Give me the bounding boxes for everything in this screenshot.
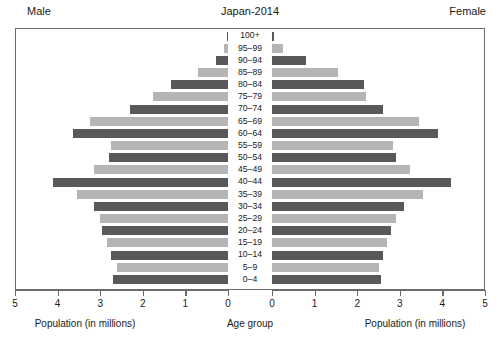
axis-tick [143, 290, 144, 296]
table-row [15, 153, 228, 162]
axis-tick [357, 290, 358, 296]
male-bar-35-39 [77, 190, 228, 199]
age-group-label-55-59: 55–59 [228, 141, 272, 150]
age-group-label-50-54: 50–54 [228, 153, 272, 162]
table-row [15, 190, 228, 199]
table-row [272, 190, 485, 199]
male-bar-45-49 [94, 165, 228, 174]
left-axis-title: Population (in millions) [35, 318, 136, 329]
female-bar-30-34 [272, 202, 404, 211]
table-row [272, 251, 485, 260]
right-tick-label-3: 3 [397, 298, 403, 309]
age-group-label-60-64: 60–64 [228, 129, 272, 138]
table-row [15, 92, 228, 101]
table-row [15, 251, 228, 260]
table-row [15, 105, 228, 114]
population-pyramid-chart: Male Japan-2014 Female 100+95–9990–9485–… [0, 0, 500, 342]
female-side-label: Female [449, 5, 486, 17]
male-bar-90-94 [216, 56, 228, 65]
male-bar-30-34 [94, 202, 228, 211]
table-row [272, 214, 485, 223]
age-group-label-25-29: 25–29 [228, 214, 272, 223]
age-group-labels: 100+95–9990–9485–8980–8475–7970–7465–696… [228, 28, 272, 290]
table-row [272, 44, 485, 53]
table-row [272, 141, 485, 150]
female-bar-100+ [272, 32, 274, 41]
table-row [272, 226, 485, 235]
age-group-label-100+: 100+ [228, 31, 272, 40]
axis-tick [315, 290, 316, 296]
table-row [15, 56, 228, 65]
axis-tick [58, 290, 59, 296]
age-group-label-90-94: 90–94 [228, 56, 272, 65]
table-row [15, 68, 228, 77]
age-group-label-0-4: 0–4 [228, 275, 272, 284]
female-bar-0-4 [272, 275, 381, 284]
table-row [15, 32, 228, 41]
female-bar-95-99 [272, 44, 283, 53]
table-row [15, 165, 228, 174]
axis-tick [442, 290, 443, 296]
female-bar-40-44 [272, 178, 451, 187]
male-bar-55-59 [111, 141, 228, 150]
age-group-label-5-9: 5–9 [228, 263, 272, 272]
age-group-label-85-89: 85–89 [228, 68, 272, 77]
table-row [272, 165, 485, 174]
male-bar-80-84 [171, 80, 229, 89]
table-row [15, 263, 228, 272]
age-group-label-15-19: 15–19 [228, 238, 272, 247]
axis-tick [228, 290, 229, 296]
female-bar-65-69 [272, 117, 419, 126]
left-axis-line [15, 290, 229, 291]
right-tick-label-0: 0 [269, 298, 275, 309]
male-bar-25-29 [100, 214, 228, 223]
axis-tick [400, 290, 401, 296]
female-bar-60-64 [272, 129, 438, 138]
right-axis-line [272, 290, 486, 291]
age-group-label-30-34: 30–34 [228, 202, 272, 211]
age-group-label-75-79: 75–79 [228, 92, 272, 101]
left-tick-label-1: 1 [183, 298, 189, 309]
table-row [15, 129, 228, 138]
table-row [272, 105, 485, 114]
age-group-label-70-74: 70–74 [228, 104, 272, 113]
table-row [272, 80, 485, 89]
right-tick-label-4: 4 [440, 298, 446, 309]
age-group-label-80-84: 80–84 [228, 80, 272, 89]
male-bar-20-24 [102, 226, 228, 235]
table-row [272, 202, 485, 211]
female-bar-10-14 [272, 251, 383, 260]
table-row [272, 92, 485, 101]
table-row [15, 238, 228, 247]
male-bar-60-64 [73, 129, 228, 138]
age-group-label-10-14: 10–14 [228, 250, 272, 259]
age-group-label-20-24: 20–24 [228, 226, 272, 235]
right-tick-label-5: 5 [482, 298, 488, 309]
male-bar-40-44 [53, 178, 228, 187]
table-row [272, 263, 485, 272]
female-bar-15-19 [272, 238, 387, 247]
table-row [272, 238, 485, 247]
axis-tick [185, 290, 186, 296]
female-bar-80-84 [272, 80, 364, 89]
axis-tick [485, 290, 486, 296]
male-bar-50-54 [109, 153, 228, 162]
female-bars-panel [272, 28, 485, 290]
table-row [15, 275, 228, 284]
male-bar-75-79 [153, 92, 228, 101]
female-bar-90-94 [272, 56, 306, 65]
table-row [15, 80, 228, 89]
left-tick-label-4: 4 [55, 298, 61, 309]
chart-title: Japan-2014 [0, 5, 500, 17]
table-row [272, 68, 485, 77]
table-row [272, 153, 485, 162]
age-group-label-95-99: 95–99 [228, 44, 272, 53]
female-bar-70-74 [272, 105, 383, 114]
male-bar-5-9 [117, 263, 228, 272]
male-bar-15-19 [107, 238, 228, 247]
female-bar-20-24 [272, 226, 391, 235]
female-bar-50-54 [272, 153, 396, 162]
right-axis-title: Population (in millions) [365, 318, 466, 329]
left-tick-label-2: 2 [140, 298, 146, 309]
female-bar-25-29 [272, 214, 396, 223]
